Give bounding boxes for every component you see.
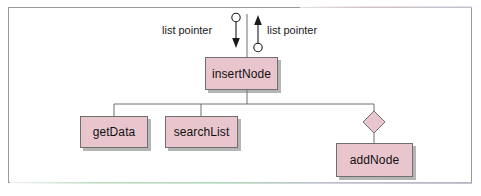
diagram-canvas: insertNode getData searchList addNode li… (0, 0, 481, 196)
module-addnode-label: addNode (350, 153, 399, 167)
module-addnode[interactable]: addNode (336, 143, 413, 177)
module-insertnode-label: insertNode (212, 67, 271, 81)
label-list-pointer-out: list pointer (267, 24, 317, 36)
module-getdata-label: getData (93, 125, 136, 139)
label-list-pointer-in: list pointer (162, 24, 212, 36)
module-searchlist[interactable]: searchList (165, 116, 238, 148)
couple-up-symbol (254, 15, 262, 52)
module-getdata[interactable]: getData (80, 116, 148, 148)
selection-diamond-icon (363, 111, 385, 133)
module-insertnode[interactable]: insertNode (205, 57, 278, 90)
module-searchlist-label: searchList (174, 125, 230, 139)
couple-down-symbol (232, 13, 240, 48)
